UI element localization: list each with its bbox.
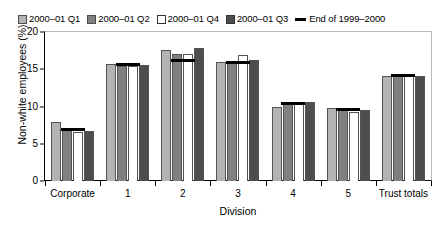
bar: [84, 131, 94, 181]
bars: [266, 32, 321, 181]
bars: [45, 32, 100, 181]
legend-label-q1: 2000–01 Q1: [29, 14, 80, 24]
bar-group: [266, 32, 321, 181]
y-axis: Non-white employees (%) 20151050: [0, 31, 44, 182]
bar: [161, 50, 171, 181]
bar: [139, 65, 149, 181]
x-tick-label: 5: [321, 188, 376, 202]
swatch-dark-gray-icon: [226, 15, 235, 24]
reference-line-marker: [171, 59, 195, 62]
bar-group: [321, 32, 376, 181]
y-tick-label: 0: [32, 176, 38, 186]
y-tick-label: 5: [32, 139, 38, 149]
x-axis-separator: [266, 181, 267, 186]
x-tick-label: 2: [155, 188, 210, 202]
bar: [382, 76, 392, 181]
x-tick-label: 1: [100, 188, 155, 202]
chart-legend: 2000–01 Q1 2000–01 Q2 2000–01 Q4 2000–01…: [18, 12, 430, 26]
bar: [415, 76, 425, 181]
bar-group: [155, 32, 210, 181]
x-axis-separator: [376, 181, 377, 186]
bar-group: [376, 32, 431, 181]
reference-line-marker: [61, 128, 85, 131]
bar-groups: [45, 32, 431, 181]
y-axis-title: Non-white employees (%): [17, 10, 28, 160]
bar: [327, 108, 337, 181]
swatch-medium-gray-icon: [87, 15, 96, 24]
bar: [194, 48, 204, 181]
x-tick-label: 4: [266, 188, 321, 202]
bar: [349, 112, 359, 181]
bar: [238, 55, 248, 181]
bar: [338, 110, 348, 181]
bars: [210, 32, 265, 181]
reference-line-marker: [226, 61, 250, 64]
bar: [227, 63, 237, 181]
bar: [404, 74, 414, 181]
bar: [51, 122, 61, 181]
bar-chart: 2000–01 Q1 2000–01 Q2 2000–01 Q4 2000–01…: [0, 0, 442, 234]
legend-item-q3: 2000–01 Q3: [226, 14, 288, 24]
bars: [155, 32, 210, 181]
legend-label-q4: 2000–01 Q4: [168, 14, 219, 24]
y-tick-label: 20: [27, 27, 38, 37]
bars: [321, 32, 376, 181]
bar: [172, 54, 182, 181]
bar: [106, 64, 116, 181]
bar: [216, 62, 226, 181]
reference-line-marker: [391, 74, 415, 77]
legend-label-q3: 2000–01 Q3: [237, 14, 288, 24]
bar-group: [210, 32, 265, 181]
bars: [376, 32, 431, 181]
bar: [393, 76, 403, 181]
bar: [62, 130, 72, 181]
x-axis-separator: [155, 181, 156, 186]
x-axis-labels: Corporate12345Trust totals: [45, 188, 431, 202]
x-axis-separator: [321, 181, 322, 186]
x-axis-separator: [431, 181, 432, 186]
bar: [283, 102, 293, 181]
x-axis-separator: [45, 181, 46, 186]
y-tick-label: 10: [27, 102, 38, 112]
legend-label-end-of-year: End of 1999–2000: [309, 14, 385, 24]
reference-line-marker: [116, 63, 140, 66]
x-axis-title: Division: [45, 205, 431, 217]
bar-group: [45, 32, 100, 181]
reference-line-marker: [281, 102, 305, 105]
reference-line-marker: [336, 108, 360, 111]
x-tick-label: Corporate: [45, 188, 100, 202]
legend-item-q4: 2000–01 Q4: [157, 14, 219, 24]
bar: [249, 60, 259, 181]
x-tick-label: Trust totals: [376, 188, 431, 202]
legend-label-q2: 2000–01 Q2: [98, 14, 149, 24]
swatch-white-icon: [157, 15, 166, 24]
bar-group: [100, 32, 155, 181]
legend-item-end-of-year: End of 1999–2000: [295, 14, 385, 24]
bar: [183, 54, 193, 181]
x-axis-separator: [100, 181, 101, 186]
bars: [100, 32, 155, 181]
bar: [73, 132, 83, 181]
y-tick-label: 15: [27, 64, 38, 74]
line-black-icon: [295, 18, 306, 21]
legend-item-q2: 2000–01 Q2: [87, 14, 149, 24]
x-axis-separator: [210, 181, 211, 186]
x-axis-separators: [45, 181, 431, 186]
x-tick-label: 3: [210, 188, 265, 202]
bar: [294, 102, 304, 181]
bar: [128, 66, 138, 181]
bar: [117, 66, 127, 181]
bar: [360, 110, 370, 181]
bar: [305, 102, 315, 181]
bar: [272, 107, 282, 181]
